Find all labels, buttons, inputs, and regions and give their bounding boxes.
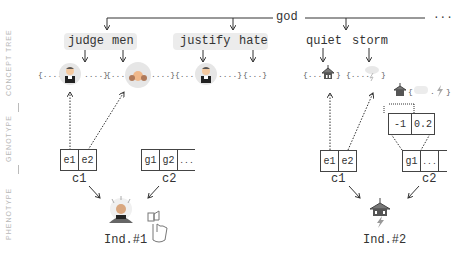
gene-cell: e2 [339, 151, 356, 171]
individual-label: Ind.#2 [363, 233, 406, 247]
temple-icon [320, 64, 336, 87]
chromosome-c2-ind2: g1 ... [402, 150, 447, 172]
concept-storm: storm [352, 34, 388, 48]
chromosome-c1-ind1: e1 e2 [60, 149, 97, 171]
set-hate: {...} [243, 70, 267, 79]
gene-cell-ellipsis: ... [421, 151, 439, 171]
set-blend-open: { [408, 87, 413, 96]
chromosome-c1-ind2: e1 e2 [320, 150, 357, 172]
weight-cell: 0.2 [412, 114, 434, 134]
chromosome-label: c2 [162, 172, 176, 186]
temple-lightning-icon [368, 198, 392, 233]
gene-cell: g2 [160, 150, 178, 170]
thumbs-up-hand-icon [145, 210, 169, 249]
concept-justify: justify [180, 34, 230, 48]
gene-cell: e1 [321, 151, 339, 171]
set-judge-close: ....} [84, 70, 108, 79]
judge-emoji-icon [59, 63, 81, 85]
gene-cell: g1 [142, 150, 160, 170]
concept-men: men [112, 34, 134, 48]
storm-cloud-icon [414, 86, 428, 94]
concept-quiet: quiet [306, 34, 342, 48]
temple-icon [393, 82, 407, 103]
gene-cell-empty [439, 151, 447, 171]
concept-judge: judge [68, 34, 104, 48]
root-concept-god: god [276, 10, 298, 24]
gene-cell: e2 [79, 150, 96, 170]
set-quiet-close: } [336, 70, 341, 79]
set-men-close: ....} [151, 70, 175, 79]
weight-vector: -1 0.2 [388, 113, 435, 135]
gene-cell: g1 [403, 151, 421, 171]
set-blend-close: } [446, 87, 451, 96]
weight-cell: -1 [389, 114, 412, 134]
root-ellipsis: ... [433, 9, 453, 21]
judge-emoji-icon [195, 63, 217, 85]
judge-emoji-icon [104, 195, 138, 234]
set-storm-close: } [381, 70, 386, 79]
set-justify-close: ....} [218, 70, 242, 79]
chromosome-c2-ind1: g1 g2 ... [141, 149, 195, 171]
concept-hate: hate [239, 34, 268, 48]
chromosome-label: c2 [422, 172, 436, 186]
set-blend-sep: . [430, 87, 435, 96]
gene-cell: e1 [61, 150, 79, 170]
storm-cloud-lightning-icon [364, 64, 380, 87]
gene-cell-ellipsis: ... [178, 150, 195, 170]
chromosome-label: c1 [72, 172, 86, 186]
lightning-icon [436, 84, 444, 102]
individual-label: Ind.#1 [104, 233, 147, 247]
men-emoji-icon [125, 62, 151, 88]
chromosome-label: c1 [331, 172, 345, 186]
